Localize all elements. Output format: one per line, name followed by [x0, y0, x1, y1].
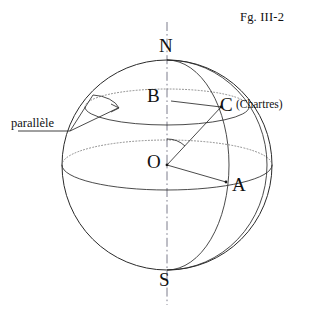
label-point-c: C: [220, 95, 233, 114]
meridian-arc-through-chartres: [167, 60, 229, 270]
meridian-arc-outer: [167, 60, 267, 270]
label-parallele-callout: parallèle: [11, 117, 54, 130]
point-marker-a: [225, 181, 228, 184]
radius-oa-line: [167, 165, 226, 182]
label-point-b: B: [147, 86, 160, 105]
chord-bc-line: [171, 101, 221, 107]
label-south-pole: S: [159, 270, 170, 289]
label-north-pole: N: [159, 36, 173, 55]
label-centre-o: O: [147, 152, 161, 171]
label-point-a: A: [232, 175, 246, 194]
figure-container: Fg. III-2 N B C (Chartres) O A S parallè…: [0, 0, 318, 317]
radius-oc-line: [167, 107, 221, 165]
point-marker-o: [166, 164, 169, 167]
figure-caption: Fg. III-2: [240, 11, 284, 24]
label-city-annotation: (Chartres): [236, 99, 283, 111]
